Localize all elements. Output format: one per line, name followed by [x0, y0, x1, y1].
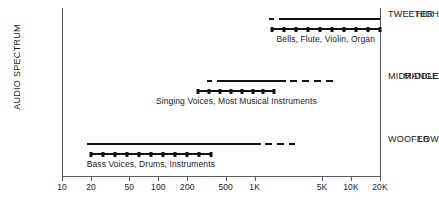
- range-line-dashed-tail: [265, 143, 295, 145]
- y-axis-left: [62, 8, 63, 176]
- marker-dot: [366, 27, 369, 32]
- range-line-solid: [218, 80, 285, 82]
- x-tick: [158, 176, 159, 181]
- y-axis-right: [380, 8, 381, 176]
- marker-dot: [270, 27, 273, 32]
- marker-dot: [219, 89, 222, 94]
- x-tick-label: 10: [57, 182, 67, 192]
- x-axis: [62, 176, 380, 177]
- marker-dot: [113, 152, 116, 157]
- x-tick: [91, 176, 92, 181]
- range-line-dashed-lead: [269, 18, 282, 20]
- marker-dot: [342, 27, 345, 32]
- series-caption: Singing Voices, Most Musical Instruments: [156, 96, 317, 106]
- marker-dot: [330, 27, 333, 32]
- right-label-midrange: MIDRANGE: [388, 71, 438, 81]
- marker-dot: [378, 27, 381, 32]
- marker-dot: [209, 152, 212, 157]
- x-tick-label: 5K: [317, 182, 328, 192]
- x-tick-label: 20K: [372, 182, 387, 192]
- x-tick-label: 1K: [249, 182, 260, 192]
- marker-dot: [240, 89, 243, 94]
- y-axis-title: AUDIO SPECTRUM: [12, 15, 22, 119]
- x-tick: [187, 176, 188, 181]
- marker-dot: [294, 27, 297, 32]
- x-tick-label: 500: [218, 182, 232, 192]
- marker-dot: [137, 152, 140, 157]
- marker-dot: [251, 89, 254, 94]
- x-tick: [226, 176, 227, 181]
- x-tick: [322, 176, 323, 181]
- marker-dot: [101, 152, 104, 157]
- x-tick: [62, 176, 63, 181]
- x-tick-label: 20: [86, 182, 96, 192]
- range-line-solid: [87, 143, 261, 145]
- marker-dot: [273, 89, 276, 94]
- x-tick-label: 10K: [343, 182, 358, 192]
- marker-dot: [125, 152, 128, 157]
- marker-dot: [282, 27, 285, 32]
- x-tick: [255, 176, 256, 181]
- x-tick-label: 50: [125, 182, 135, 192]
- marker-dot: [149, 152, 152, 157]
- right-label-woofer: WOOFER: [388, 134, 430, 144]
- x-tick: [129, 176, 130, 181]
- marker-dot: [229, 89, 232, 94]
- marker-dot: [262, 89, 265, 94]
- marker-dot: [173, 152, 176, 157]
- x-tick: [380, 176, 381, 181]
- range-line-dashed-lead: [207, 80, 218, 82]
- marker-dot: [208, 89, 211, 94]
- series-caption: Bells, Flute, Violin, Organ: [277, 34, 375, 44]
- x-tick-label: 200: [180, 182, 194, 192]
- marker-dot: [318, 27, 321, 32]
- marker-dot: [354, 27, 357, 32]
- series-caption: Bass Voices, Drums, Instruments: [87, 159, 215, 169]
- marker-dot: [306, 27, 309, 32]
- marker-dot: [197, 152, 200, 157]
- marker-line: [272, 28, 380, 30]
- marker-dot: [161, 152, 164, 157]
- range-line-dashed-tail: [290, 80, 333, 82]
- marker-line: [198, 90, 274, 92]
- x-tick: [351, 176, 352, 181]
- audio-spectrum-chart: AUDIO SPECTRUM HIGH MIDDLE LOW TWEETER M…: [0, 0, 439, 216]
- marker-dot: [197, 89, 200, 94]
- right-label-tweeter: TWEETER: [388, 9, 433, 19]
- marker-dot: [185, 152, 188, 157]
- marker-line: [91, 153, 211, 155]
- marker-dot: [89, 152, 92, 157]
- x-tick-label: 100: [151, 182, 165, 192]
- range-line-solid: [282, 18, 380, 20]
